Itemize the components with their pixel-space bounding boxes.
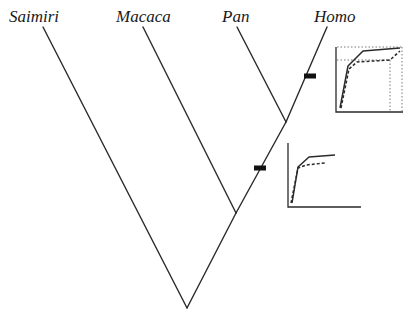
growth-curve-insets <box>288 47 403 207</box>
branch-pan_homo-pan <box>237 27 286 122</box>
taxon-label-macaca: Macaca <box>116 8 171 25</box>
inset-homo <box>336 47 403 112</box>
inset-dashed-curve <box>291 163 325 203</box>
change-bar-stem <box>254 166 266 171</box>
taxon-label-saimiri: Saimiri <box>9 8 59 25</box>
inset-solid-curve <box>340 48 400 108</box>
change-bar-homo <box>304 74 316 79</box>
branch-root-saimiri <box>43 27 187 308</box>
phylogeny-diagram <box>0 0 411 322</box>
taxon-label-pan: Pan <box>222 8 249 25</box>
inset-stem <box>288 143 361 207</box>
branch-macaca_homo-macaca <box>143 27 236 213</box>
character-change-markers <box>254 74 316 171</box>
branch-root-macaca_homo <box>187 213 236 308</box>
tree-branches <box>43 27 327 308</box>
inset-axes <box>288 143 361 207</box>
taxon-label-homo: Homo <box>314 8 356 25</box>
inset-solid-curve <box>292 155 335 203</box>
inset-dashed-curve <box>341 51 400 108</box>
